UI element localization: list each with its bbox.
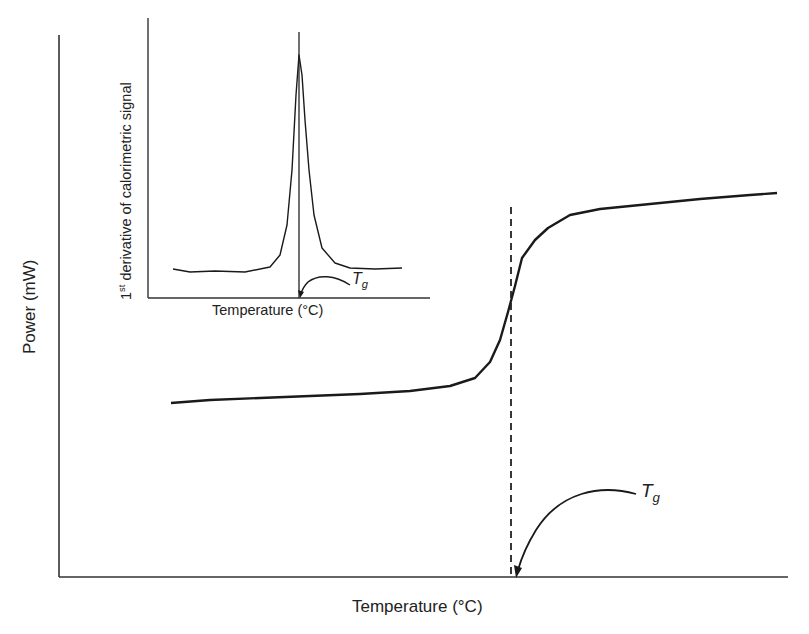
inset-tg-arrow <box>298 277 350 298</box>
main-tg-arrow <box>514 490 636 578</box>
main-x-axis-label: Temperature (°C) <box>352 597 483 617</box>
inset-y-label-ordinal: 1 <box>118 292 134 300</box>
main-tg-label: Tg <box>641 480 660 505</box>
main-tg-subscript: g <box>653 490 660 505</box>
inset-y-label-text: derivative of calorimetric signal <box>118 82 134 284</box>
inset-tg-label: Tg <box>352 270 368 290</box>
inset-tg-subscript: g <box>362 278 368 290</box>
main-y-axis-label: Power (mW) <box>20 260 40 354</box>
inset-y-axis-label: 1st derivative of calorimetric signal <box>116 82 134 300</box>
inset-derivative-curve <box>173 55 402 272</box>
inset-tg-letter: T <box>352 270 362 287</box>
inset-axes <box>148 18 430 298</box>
inset-x-axis-label: Temperature (°C) <box>212 302 323 318</box>
main-axes <box>59 35 788 577</box>
main-tg-letter: T <box>641 480 653 501</box>
inset-y-label-superscript: st <box>116 285 127 292</box>
